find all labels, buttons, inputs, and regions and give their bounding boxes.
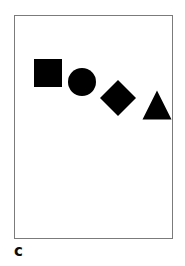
figure-panel: c [0,0,185,266]
panel-label: c [14,241,54,261]
figure-frame-border [14,15,173,239]
